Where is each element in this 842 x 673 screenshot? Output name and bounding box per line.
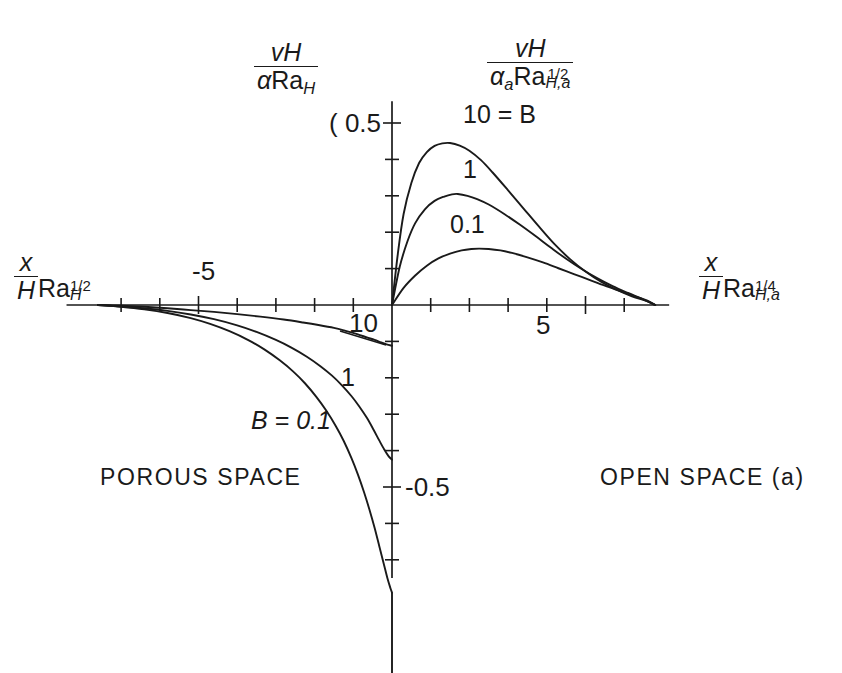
figure-canvas: vH αRaH vH αaRa1/2H,a x H Ra1/2H x H Ra1… [0,0,842,673]
curve-label-b10-top-text: 10 = B [463,100,536,128]
y-left-ra: Ra [271,66,303,94]
x-axis-label-left: x H Ra1/2H [14,250,91,303]
curve-b-1-right [392,194,655,305]
curve-label-b1-top: 1 [463,157,477,182]
y-axis-label-left: vH αRaH [254,40,318,97]
x-left-num: x [20,248,33,276]
y-right-ra: Ra [513,62,545,90]
curve-b-0-1-right [392,249,655,305]
y-right-numerator: vH [515,34,546,62]
x-axis-label-right: x H Ra1/4H,a [699,250,780,303]
region-label-porous: POROUS SPACE [100,466,302,489]
y-axis-label-right: vH αaRa1/2H,a [487,36,573,93]
y-tick-label-positive: ( 0.5 [329,110,381,136]
y-right-alpha: α [490,62,504,90]
x-tick-label-origin-left: 10 [349,310,378,336]
x-right-den: H [702,276,720,304]
curve-label-b1-bottom: 1 [341,365,355,390]
x-tick-label-minus5: -5 [192,258,215,284]
x-right-sub: H,a [755,290,780,300]
y-tick-positive-value: 0.5 [345,108,381,138]
y-left-numerator: vH [271,38,302,66]
curve-label-b01-top: 0.1 [450,212,485,237]
curve-label-b10-top: 10 = B [463,102,536,127]
x-tick-label-plus5: 5 [536,312,550,338]
y-right-sub: H,a [545,78,570,88]
x-right-num: x [705,248,718,276]
curve-label-b01-bottom: B = 0.1 [251,408,331,433]
x-right-ra: Ra [723,274,755,302]
x-left-ra: Ra [38,274,70,302]
plot-svg [0,0,842,673]
x-left-den: H [17,276,35,304]
region-label-open: OPEN SPACE (a) [600,466,805,489]
y-tick-positive-prefix: ( [329,108,338,138]
curve-b-0-1-left [98,305,392,593]
y-tick-label-negative: -0.5 [405,474,450,500]
y-left-alpha: α [257,66,271,94]
curve-b-10-left [98,305,392,346]
curve-b-10-right [392,143,655,305]
y-left-sub: H [303,79,315,97]
